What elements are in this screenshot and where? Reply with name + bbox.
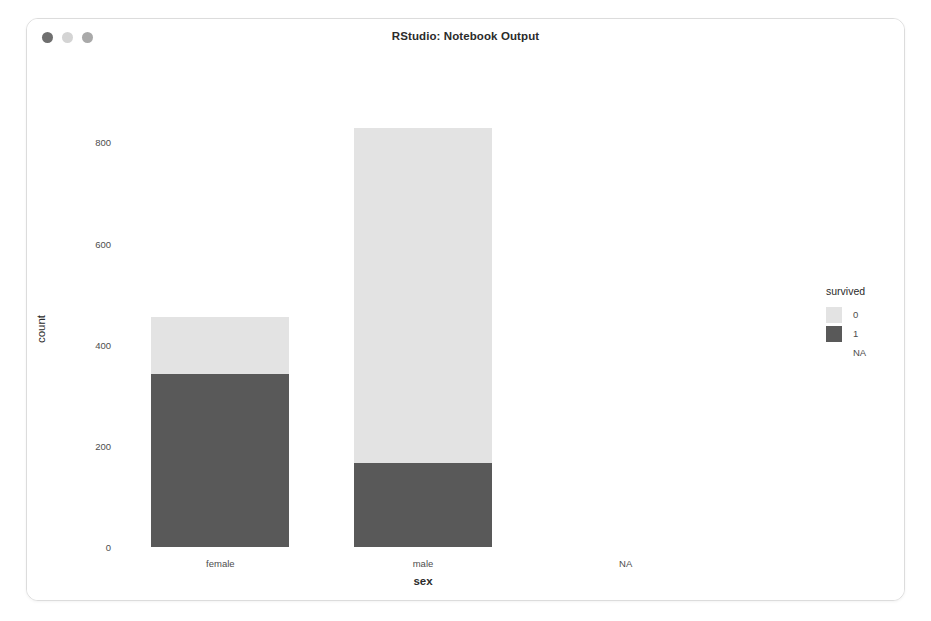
bar-segment-female-1 <box>151 374 289 547</box>
legend-entries: 01NA <box>826 306 905 361</box>
plot-area: 0200400600800 count sex survived 01NA fe… <box>27 57 905 601</box>
plot-panel <box>119 112 727 547</box>
x-axis-tick-label: male <box>413 558 434 569</box>
x-axis-tick-label: NA <box>619 558 632 569</box>
notebook-output-window: RStudio: Notebook Output 0200400600800 c… <box>26 18 905 601</box>
legend-entry-NA: NA <box>826 344 905 361</box>
window-titlebar: RStudio: Notebook Output <box>27 19 904 57</box>
bar-segment-male-0 <box>354 128 492 462</box>
legend-label-1: 1 <box>853 328 858 339</box>
legend-swatch-0 <box>826 307 842 323</box>
legend-label-0: 0 <box>853 309 858 320</box>
bar-segment-male-1 <box>354 463 492 547</box>
x-axis-tick-label: female <box>206 558 235 569</box>
legend-swatch-NA <box>826 345 842 361</box>
y-axis-tick-label: 0 <box>106 542 111 553</box>
bar-female <box>151 317 289 547</box>
legend-entry-0: 0 <box>826 306 905 323</box>
legend-swatch-1 <box>826 326 842 342</box>
legend-label-NA: NA <box>853 347 866 358</box>
y-axis-tick-label: 800 <box>95 137 111 148</box>
legend-entry-1: 1 <box>826 325 905 342</box>
y-axis-tick-label: 200 <box>95 440 111 451</box>
bar-segment-female-0 <box>151 317 289 374</box>
bar-male <box>354 128 492 547</box>
legend: survived 01NA <box>826 285 905 363</box>
window-title: RStudio: Notebook Output <box>27 30 904 42</box>
y-axis-tick-label: 400 <box>95 339 111 350</box>
x-axis-label: sex <box>413 575 432 587</box>
y-axis-label: count <box>35 315 47 343</box>
y-axis-tick-label: 600 <box>95 238 111 249</box>
legend-title: survived <box>826 285 905 297</box>
